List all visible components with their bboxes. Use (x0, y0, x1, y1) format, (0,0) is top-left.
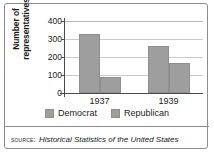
bar-republican-1939 (169, 63, 190, 93)
legend-item-republican[interactable]: Republican (111, 108, 169, 118)
bar-democrat-1939 (148, 46, 169, 93)
y-axis-tick-mark (61, 57, 65, 58)
y-axis-tick-mark (61, 39, 65, 40)
legend: DemocratRepublican (5, 108, 209, 118)
source-label: SOURCE: (11, 135, 36, 144)
legend-item-democrat[interactable]: Democrat (45, 108, 97, 118)
chart-area: Number of representatives 4003002001000 … (5, 4, 209, 124)
source-divider (5, 126, 209, 127)
x-axis-tick-labels: 19371939 (65, 96, 203, 106)
x-axis-tick-label: 1937 (65, 96, 134, 106)
bar-democrat-1937 (79, 34, 100, 93)
legend-label: Republican (124, 108, 169, 118)
y-axis-tick-labels: 4003002001000 (40, 17, 62, 93)
y-axis-tick-label: 400 (40, 17, 62, 26)
plot-panel (65, 21, 203, 93)
figure-container: Number of representatives 4003002001000 … (4, 3, 208, 149)
y-axis-tick-label: 100 (40, 71, 62, 80)
source-title: Historical Statistics of the United Stat… (39, 135, 179, 144)
legend-swatch-icon (111, 109, 120, 118)
y-axis-tick-label: 200 (40, 53, 62, 62)
source-line: SOURCE: Historical Statistics of the Uni… (11, 130, 205, 148)
bar-group (134, 21, 203, 93)
bar-group (65, 21, 134, 93)
bars-layer (65, 21, 203, 93)
y-axis-title-line-1: Number of (11, 8, 21, 50)
x-axis-tick-label: 1939 (134, 96, 203, 106)
y-axis-tick-mark (61, 21, 65, 22)
y-axis-title-line-2: representatives (21, 0, 31, 60)
y-axis-tick-label: 0 (40, 89, 62, 98)
y-axis-tick-mark (61, 93, 65, 94)
y-axis-tick-mark (61, 75, 65, 76)
y-axis-tick-label: 300 (40, 35, 62, 44)
x-axis-line (60, 93, 203, 94)
legend-swatch-icon (45, 109, 54, 118)
legend-label: Democrat (58, 108, 97, 118)
y-axis-title: Number of representatives (6, 0, 36, 67)
bar-republican-1937 (100, 77, 121, 93)
